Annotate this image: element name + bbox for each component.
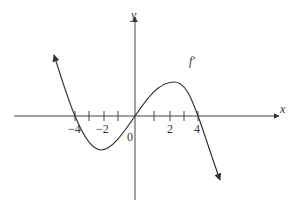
tick-label-4: 4	[194, 122, 200, 136]
origin-label: 0	[127, 130, 133, 144]
derivative-graph: −4 −2 2 4 0 x y f′	[0, 0, 295, 210]
function-label: f′	[189, 54, 195, 68]
x-axis-label: x	[279, 102, 286, 116]
f-prime-curve	[54, 55, 220, 180]
y-axis-label: y	[130, 8, 137, 22]
tick-label-neg2: −2	[96, 122, 109, 136]
tick-label-2: 2	[167, 122, 173, 136]
tick-label-neg4: −4	[68, 122, 81, 136]
